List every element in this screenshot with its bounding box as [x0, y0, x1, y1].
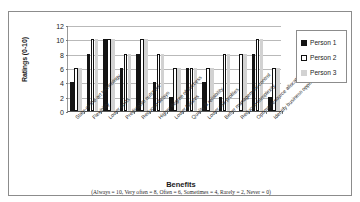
x-axis-category-labels: State-of-the-art technologyFlexibilityLo…: [67, 113, 360, 183]
legend-swatch-person-2: [301, 55, 307, 61]
x-axis-scale-note: (Always = 10, Very often = 8, Often = 6,…: [9, 189, 353, 195]
y-axis-title: Ratings (0-10): [21, 25, 28, 95]
legend: Person 1 Person 2 Person 3: [296, 30, 347, 83]
legend-label-person-2: Person 2: [310, 54, 336, 61]
legend-label-person-1: Person 1: [310, 39, 336, 46]
legend-swatch-person-3: [301, 70, 307, 76]
bar-3[interactable]: [276, 68, 280, 111]
y-axis-tick-label: 8: [60, 51, 64, 58]
y-axis-tick-label: 4: [60, 80, 64, 87]
legend-item-person-3[interactable]: Person 3: [301, 65, 346, 80]
legend-label-person-3: Person 3: [310, 69, 336, 76]
bar-3[interactable]: [78, 68, 82, 111]
chart-frame: Ratings (0-10) 024681012 State-of-the-ar…: [8, 11, 352, 196]
legend-item-person-2[interactable]: Person 2: [301, 50, 346, 65]
bar-group: [70, 26, 82, 111]
bar-3[interactable]: [177, 68, 181, 111]
y-axis-tick-label: 0: [60, 109, 64, 116]
legend-item-person-1[interactable]: Person 1: [301, 35, 346, 50]
legend-swatch-person-1: [301, 40, 307, 46]
y-axis-tick-label: 2: [60, 94, 64, 101]
bar-3[interactable]: [210, 68, 214, 111]
y-axis-tick-label: 12: [56, 23, 64, 30]
y-axis-tick-label: 10: [56, 37, 64, 44]
y-axis-tick-label: 6: [60, 66, 64, 73]
x-axis-title: Benefits: [9, 180, 353, 189]
bar-group: [103, 26, 115, 111]
